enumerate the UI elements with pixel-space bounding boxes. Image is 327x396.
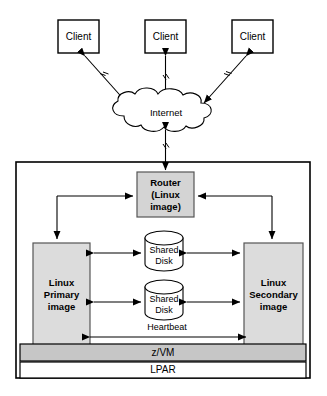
shared-disk-2: Shared Disk [145, 280, 183, 320]
internet-label: Internet [150, 107, 183, 118]
client-left-label: Client [66, 31, 92, 42]
client-box-left: Client [58, 20, 99, 53]
linux-primary-node: Linux Primary image [33, 243, 90, 345]
router-label-line3: image) [150, 201, 181, 212]
link-internet-router [163, 130, 169, 170]
client-box-center: Client [145, 20, 186, 53]
client-center-label: Client [153, 31, 179, 42]
shared-disk-1-label-line1: Shared [149, 245, 178, 255]
heartbeat-label: Heartbeat [147, 322, 187, 332]
linux-secondary-label-line2: Secondary [249, 289, 298, 300]
shared-disk-1-label-line2: Disk [155, 256, 173, 266]
link-break-mark-right [224, 72, 232, 76]
shared-disk-2-label-line1: Shared [149, 294, 178, 304]
link-router-primary [57, 196, 133, 239]
link-client-right-internet-line [204, 56, 246, 103]
heartbeat-link: Heartbeat [90, 322, 246, 337]
client-right-label: Client [240, 31, 266, 42]
linux-primary-label-line2: Primary [44, 289, 80, 300]
client-box-right: Client [232, 20, 273, 53]
lpar-band: LPAR [20, 362, 306, 378]
zvm-band: z/VM [20, 344, 306, 361]
router-label-line1: Router [150, 177, 181, 188]
router-box: Router (Linux image) [137, 172, 194, 217]
linux-primary-label-line3: image [48, 301, 75, 312]
linux-secondary-label-line1: Linux [261, 277, 287, 288]
linux-secondary-node: Linux Secondary image [244, 243, 303, 345]
shared-disk-1: Shared Disk [145, 231, 183, 271]
architecture-diagram: Client Client Client Internet Router [0, 0, 327, 396]
zvm-band-label: z/VM [152, 347, 175, 358]
link-client-right-internet [204, 56, 246, 103]
lpar-band-label: LPAR [150, 364, 175, 375]
shared-disk-1-top [145, 231, 183, 245]
internet-cloud: Internet [113, 88, 211, 131]
shared-disk-2-label-line2: Disk [155, 305, 173, 315]
shared-disk-2-top [145, 280, 183, 294]
linux-primary-label-line1: Linux [49, 277, 75, 288]
diagram-canvas: Client Client Client Internet Router [0, 0, 327, 396]
link-router-secondary [198, 196, 272, 239]
router-label-line2: (Linux [151, 189, 180, 200]
linux-secondary-label-line3: image [260, 301, 287, 312]
